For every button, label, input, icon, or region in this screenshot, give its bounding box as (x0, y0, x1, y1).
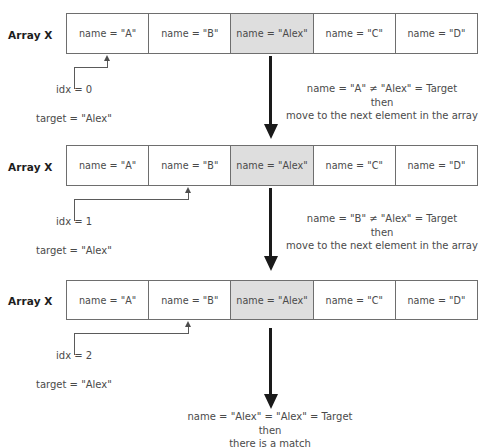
target-label-2: target = "Alex" (36, 245, 112, 256)
array-cell: name = "A" (67, 14, 149, 53)
note-line-1: name = "B" ≠ "Alex" = Target (282, 212, 482, 226)
flow-arrow-head-icon (264, 394, 278, 409)
note-line-2: then (282, 96, 482, 110)
step-note-1: name = "A" ≠ "Alex" = Target then move t… (282, 82, 482, 123)
array-cell-highlighted: name = "Alex" (231, 146, 313, 185)
idx-label-3: idx = 2 (56, 350, 92, 361)
note-line-3: move to the next element in the array (282, 239, 482, 253)
array-cell: name = "B" (149, 146, 231, 185)
note-line-1: name = "A" ≠ "Alex" = Target (282, 82, 482, 96)
flow-arrow-shaft (269, 328, 272, 396)
array-3: name = "A" name = "B" name = "Alex" name… (66, 280, 478, 320)
array-cell: name = "A" (67, 281, 149, 319)
array-label-3: Array X (8, 295, 53, 307)
array-cell: name = "D" (396, 14, 477, 53)
array-label-1: Array X (8, 29, 53, 41)
array-cell: name = "D" (396, 281, 477, 319)
note-line-3: move to the next element in the array (282, 109, 482, 123)
array-2: name = "A" name = "B" name = "Alex" name… (66, 145, 478, 186)
array-cell-highlighted: name = "Alex" (231, 14, 313, 53)
array-cell: name = "A" (67, 146, 149, 185)
pointer-riser (188, 327, 189, 334)
pointer-arrowhead-icon (185, 321, 191, 327)
pointer-riser (188, 193, 189, 200)
pointer-arrowhead-icon (185, 187, 191, 193)
note-line-2: then (170, 424, 370, 438)
array-1: name = "A" name = "B" name = "Alex" name… (66, 13, 478, 54)
note-line-2: then (282, 226, 482, 240)
array-cell: name = "C" (314, 146, 396, 185)
array-cell: name = "C" (314, 281, 396, 319)
note-line-3: there is a match (170, 437, 370, 448)
pointer-horizontal-leg (74, 333, 189, 334)
flow-arrow-head-icon (264, 256, 278, 271)
pointer-horizontal-leg (74, 199, 189, 200)
step-note-2: name = "B" ≠ "Alex" = Target then move t… (282, 212, 482, 253)
step-note-3: name = "Alex" = "Alex" = Target then the… (170, 410, 370, 448)
pointer-arrowhead-icon (104, 55, 110, 61)
array-label-2: Array X (8, 161, 53, 173)
idx-label-1: idx = 0 (56, 84, 92, 95)
search-algorithm-diagram: Array X name = "A" name = "B" name = "Al… (0, 0, 484, 448)
array-cell: name = "B" (149, 281, 231, 319)
flow-arrow-shaft (269, 188, 272, 258)
pointer-horizontal-leg (74, 67, 108, 68)
array-cell: name = "C" (314, 14, 396, 53)
array-cell-highlighted: name = "Alex" (231, 281, 313, 319)
array-cell: name = "D" (396, 146, 477, 185)
target-label-1: target = "Alex" (36, 113, 112, 124)
flow-arrow-head-icon (264, 124, 278, 139)
idx-label-2: idx = 1 (56, 216, 92, 227)
target-label-3: target = "Alex" (36, 379, 112, 390)
pointer-riser (107, 61, 108, 68)
array-cell: name = "B" (149, 14, 231, 53)
note-line-1: name = "Alex" = "Alex" = Target (170, 410, 370, 424)
flow-arrow-shaft (269, 56, 272, 126)
